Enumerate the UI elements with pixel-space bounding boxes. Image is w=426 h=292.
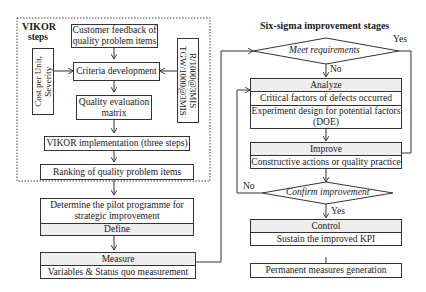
measure-header: Measure [41, 253, 195, 265]
meet-yes-label: Yes [393, 34, 407, 45]
cost-severity-box: Cost per Unit, Severity [32, 48, 54, 115]
vikor-implementation-label: VIKOR implementation (three steps) [46, 138, 187, 149]
customer-feedback-line1: Customer feedback of [73, 25, 157, 36]
measure-description: Variables & Status quo measurement [41, 265, 195, 278]
improve-header: Improve [251, 143, 401, 155]
criteria-development-label: Criteria development [76, 66, 156, 77]
r-1000-label: R/1000@3MIS [188, 46, 198, 116]
quality-matrix-line1: Quality evaluation [79, 97, 149, 108]
improve-item-constructive-actions: Constructive actions or quality practice [251, 155, 401, 168]
control-item-sustain-kpi: Sustain the improved KPI [251, 232, 401, 245]
vikor-implementation-box: VIKOR implementation (three steps) [44, 136, 190, 151]
criteria-development-box: Criteria development [73, 62, 160, 81]
tgw-1000-label: TGW/1000@3MIS [178, 46, 188, 116]
cost-per-unit-label: Cost per Unit, [33, 56, 43, 107]
ranking-box: Ranking of quality problem items [40, 164, 194, 180]
define-line1: Determine the pilot programme for [50, 200, 183, 211]
analyze-item-doe: Experiment design for potential factors … [251, 105, 401, 128]
r-tgw-box: R/1000@3MIS TGW/1000@3MIS [177, 38, 199, 123]
confirm-no-label: No [243, 181, 255, 192]
permanent-measures-label: Permanent measures generation [266, 265, 387, 276]
analyze-header: Analyze [251, 79, 401, 91]
improve-box: Improve Constructive actions or quality … [250, 142, 402, 169]
analyze-item-critical-factors: Critical factors of defects occurred [251, 91, 401, 105]
vikor-subtitle: steps [28, 32, 48, 43]
analyze-box: Analyze Critical factors of defects occu… [250, 78, 402, 129]
ranking-label: Ranking of quality problem items [53, 167, 181, 178]
confirm-improvement-label: Confirm improvement [286, 187, 369, 198]
customer-feedback-line2: quality problem items [73, 36, 156, 47]
severity-label: Severity [43, 56, 53, 107]
vikor-title: VIKOR [22, 21, 56, 32]
meet-requirements-label: Meet requirements [289, 45, 360, 56]
six-sigma-title: Six-sigma improvement stages [260, 20, 389, 31]
quality-matrix-box: Quality evaluation matrix [76, 95, 152, 120]
control-header: Control [251, 220, 401, 232]
permanent-measures-box: Permanent measures generation [250, 263, 402, 278]
define-header: Define [41, 223, 193, 235]
customer-feedback-box: Customer feedback of quality problem ite… [71, 24, 158, 48]
define-description: Determine the pilot programme for strate… [41, 199, 193, 223]
doe-line2: (DOE) [313, 117, 339, 128]
control-box: Control Sustain the improved KPI [250, 219, 402, 246]
measure-box: Measure Variables & Status quo measureme… [40, 252, 196, 279]
quality-matrix-line2: matrix [102, 108, 127, 119]
confirm-yes-label: Yes [331, 206, 345, 217]
define-line2: strategic improvement [74, 211, 159, 222]
meet-no-label: No [330, 64, 342, 75]
doe-line1: Experiment design for potential factors [252, 106, 401, 117]
define-box: Determine the pilot programme for strate… [40, 198, 194, 236]
